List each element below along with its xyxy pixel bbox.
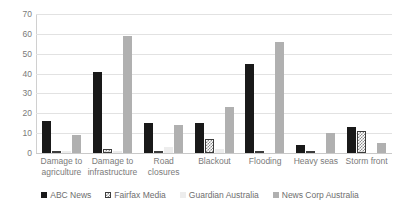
x-axis-tick-labels: Damage to agricultureDamage to infrastru… (36, 156, 392, 177)
legend-swatch-icon (273, 192, 279, 198)
bar (123, 36, 132, 153)
y-axis-tick-label: 0 (27, 149, 32, 158)
bar (52, 151, 61, 153)
chart-legend: ABC NewsFairfax MediaGuardian AustraliaN… (0, 190, 400, 200)
x-axis-tick-label: Storm front (341, 156, 392, 177)
bar-chart: 010203040506070 Damage to agricultureDam… (0, 0, 400, 212)
bar-groups (36, 14, 392, 153)
bar-group (87, 14, 138, 153)
bar (42, 121, 51, 153)
bar (377, 143, 386, 153)
bar-group (239, 14, 290, 153)
bar-group (36, 14, 87, 153)
bar (347, 127, 356, 153)
bar (113, 151, 122, 153)
bar (154, 151, 163, 153)
x-axis-tick-label: Road closures (138, 156, 189, 177)
gridline (36, 153, 392, 154)
bar-group (341, 14, 392, 153)
bar (144, 123, 153, 153)
x-axis-tick-label: Blackout (189, 156, 240, 177)
legend-label: Fairfax Media (114, 190, 166, 200)
bar (215, 149, 224, 153)
bar (62, 151, 71, 153)
plot-area (36, 14, 392, 153)
y-axis-tick-label: 10 (23, 129, 32, 138)
bar (164, 147, 173, 153)
bar (326, 133, 335, 153)
y-axis-tick-labels: 010203040506070 (0, 14, 32, 153)
legend-item[interactable]: News Corp Australia (273, 190, 359, 200)
bar-group (290, 14, 341, 153)
y-axis-tick-label: 30 (23, 89, 32, 98)
y-axis-tick-label: 70 (23, 10, 32, 19)
legend-swatch-icon (41, 192, 47, 198)
legend-item[interactable]: ABC News (41, 190, 91, 200)
bar (255, 151, 264, 153)
legend-item[interactable]: Guardian Australia (180, 190, 259, 200)
y-axis-tick-label: 20 (23, 109, 32, 118)
bar-group (189, 14, 240, 153)
bar (174, 125, 183, 153)
bar (195, 123, 204, 153)
bar (296, 145, 305, 153)
bar (275, 42, 284, 153)
bar (103, 149, 112, 153)
bar-group (138, 14, 189, 153)
bar (93, 72, 102, 153)
bar (306, 151, 315, 153)
y-axis-tick-label: 40 (23, 69, 32, 78)
legend-swatch-icon (180, 192, 186, 198)
bar (245, 64, 254, 153)
legend-label: News Corp Australia (282, 190, 359, 200)
x-axis-tick-label: Heavy seas (291, 156, 342, 177)
x-axis-tick-label: Damage to infrastructure (87, 156, 139, 177)
legend-label: ABC News (50, 190, 91, 200)
y-axis-tick-label: 50 (23, 49, 32, 58)
bar (72, 135, 81, 153)
bar (205, 139, 214, 153)
x-axis-tick-label: Damage to agriculture (36, 156, 87, 177)
bar (225, 107, 234, 153)
bar (357, 131, 366, 153)
legend-swatch-icon (105, 192, 111, 198)
legend-item[interactable]: Fairfax Media (105, 190, 166, 200)
legend-label: Guardian Australia (189, 190, 259, 200)
x-axis-tick-label: Flooding (240, 156, 291, 177)
y-axis-tick-label: 60 (23, 29, 32, 38)
